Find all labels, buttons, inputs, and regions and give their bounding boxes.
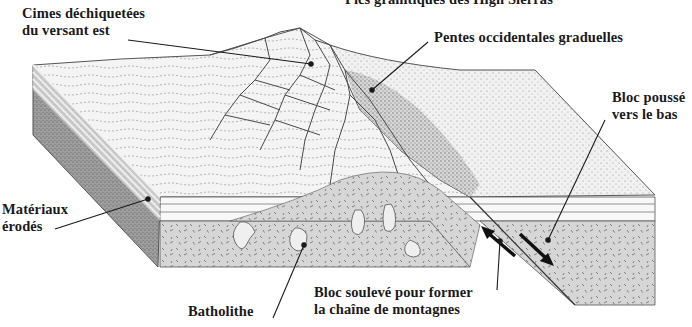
label-line: érodés bbox=[2, 218, 68, 235]
label-line: la chaîne de montagnes bbox=[314, 301, 473, 318]
label-pics-granitiques: Pics granitiques des High Sierras bbox=[345, 0, 553, 8]
label-materiaux-erodes: Matériaux érodés bbox=[2, 201, 68, 235]
label-pentes-occidentales: Pentes occidentales graduelles bbox=[434, 29, 623, 46]
block-diagram: Pics granitiques des High Sierras Cimes … bbox=[0, 0, 692, 327]
label-line: Batholithe bbox=[188, 303, 253, 320]
block-illustration bbox=[0, 0, 692, 327]
label-line: vers le bas bbox=[612, 106, 685, 123]
label-bloc-pousse: Bloc poussé vers le bas bbox=[612, 89, 685, 123]
label-line: Matériaux bbox=[2, 201, 68, 218]
label-line: du versant est bbox=[22, 22, 145, 39]
label-line: Pentes occidentales graduelles bbox=[434, 29, 623, 46]
label-line: Cimes déchiquetées bbox=[22, 5, 145, 22]
front-granite-uplifted bbox=[160, 221, 470, 267]
label-line: Bloc poussé bbox=[612, 89, 685, 106]
label-line: Bloc soulevé pour former bbox=[314, 284, 473, 301]
label-cimes: Cimes déchiquetées du versant est bbox=[22, 5, 145, 39]
label-batholithe: Batholithe bbox=[188, 303, 253, 320]
label-bloc-souleve: Bloc soulevé pour former la chaîne de mo… bbox=[314, 284, 473, 318]
